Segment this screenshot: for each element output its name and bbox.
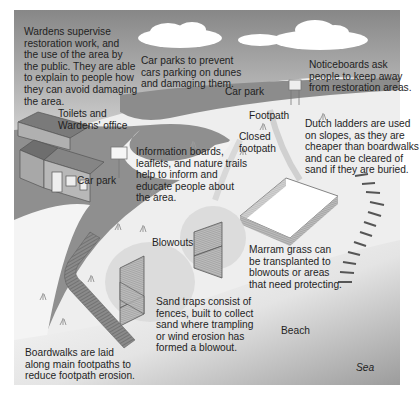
car-park-top-label: Car park (225, 86, 264, 98)
marram-note: Marram grass can be transplanted to blow… (249, 244, 342, 290)
sea-label: Sea (356, 362, 374, 374)
beach-label: Beach (281, 325, 310, 337)
footpath-label: Footpath (249, 110, 289, 122)
car-park-left-label: Car park (77, 175, 116, 187)
sand-trap-left (120, 256, 144, 326)
dutch-ladders-note: Dutch ladders are used on slopes, as the… (305, 118, 419, 176)
wardens-note: Wardens supervise restoration work, and … (24, 26, 137, 107)
noticeboards-note: Noticeboards ask people to keep away fro… (309, 59, 411, 94)
sand-traps-note: Sand traps consist of fences, built to c… (156, 296, 253, 354)
boardwalks-note: Boardwalks are laid along main footpaths… (25, 347, 135, 382)
car-parks-note: Car parks to prevent cars parking on dun… (141, 55, 241, 90)
blowouts-label: Blowouts (152, 237, 193, 249)
sand-trap-right (194, 222, 222, 278)
information-note: Information boards, leaflets, and nature… (136, 146, 247, 204)
toilets-label: Toilets and Wardens' office (58, 108, 127, 131)
